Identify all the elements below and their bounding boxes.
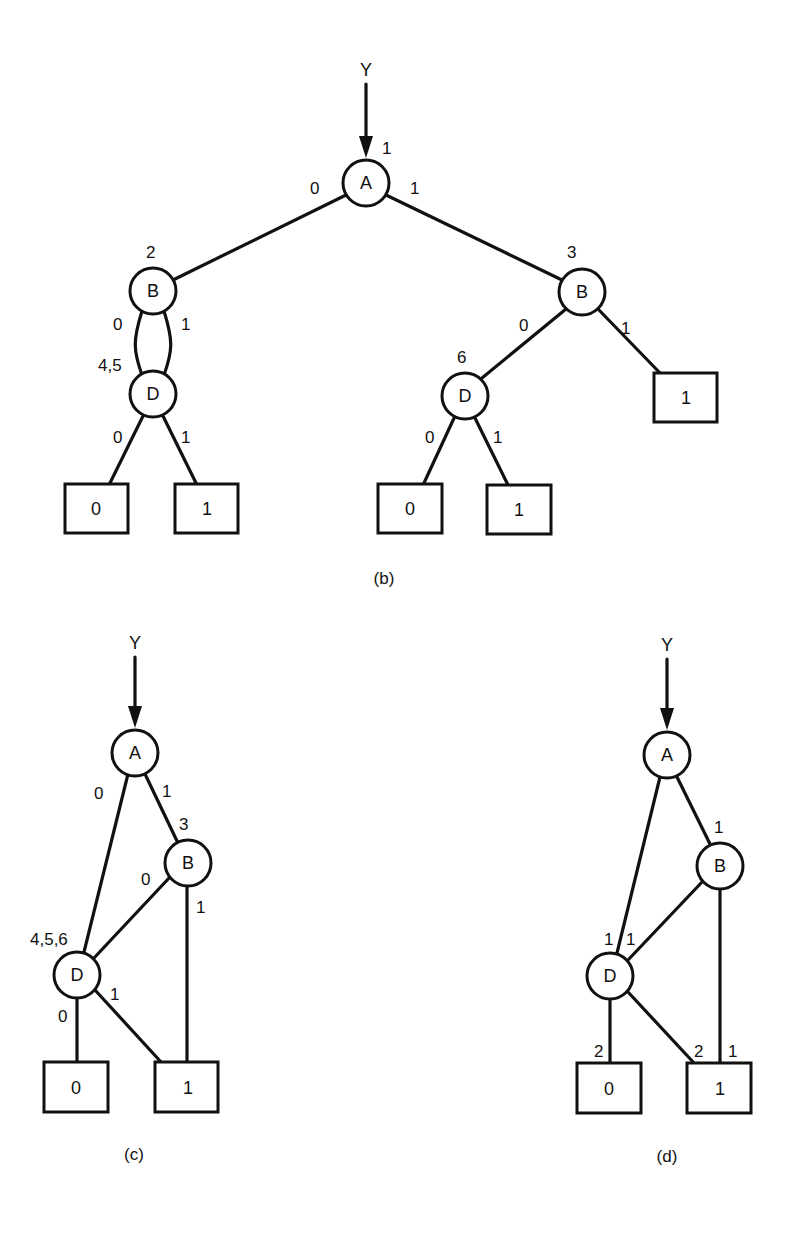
- terminal-1: 1: [155, 1062, 218, 1112]
- svg-text:B: B: [182, 853, 194, 873]
- svg-text:0: 0: [91, 499, 101, 519]
- node-a: A: [343, 160, 389, 206]
- diagram-c: Y 0 1 0 1 0 1 3 4,5,6 A B D: [30, 633, 218, 1164]
- svg-text:D: D: [147, 384, 160, 404]
- input-arrow: [660, 659, 674, 730]
- node-d: D: [587, 953, 633, 999]
- terminal-0: 0: [577, 1063, 641, 1113]
- edge-label: 1: [196, 898, 205, 917]
- edge-label: 1: [181, 315, 190, 334]
- svg-text:D: D: [71, 965, 84, 985]
- edge-label: 1: [181, 428, 190, 447]
- node-id-label: 4,5,6: [30, 930, 68, 949]
- edge-b-to-d: [628, 881, 703, 960]
- edge-label: 1: [162, 782, 171, 801]
- node-id-label: 2: [146, 243, 155, 262]
- terminal-1: 1: [175, 484, 238, 533]
- input-arrow: [128, 657, 142, 728]
- svg-text:B: B: [147, 281, 159, 301]
- node-d-right: D: [442, 373, 488, 419]
- node-b: B: [697, 843, 743, 889]
- terminal-1: 1: [687, 1063, 751, 1113]
- edge-label: 0: [94, 784, 103, 803]
- svg-text:1: 1: [681, 388, 691, 408]
- edge-a-0: [173, 195, 346, 280]
- terminal-0: 0: [65, 484, 128, 533]
- svg-text:D: D: [604, 966, 617, 986]
- terminal-0: 0: [378, 484, 442, 533]
- diagram-d: Y 1 1 1 2 2 1 A B D 0: [577, 635, 751, 1166]
- node-b-right: B: [559, 269, 605, 315]
- edge-bl-1: [164, 311, 171, 375]
- svg-text:0: 0: [604, 1079, 614, 1099]
- svg-text:0: 0: [405, 499, 415, 519]
- edge-weight: 2: [594, 1042, 603, 1061]
- edge-a-to-b: [677, 777, 710, 844]
- node-b: B: [165, 840, 211, 886]
- edge-label: 0: [58, 1007, 67, 1026]
- edge-label: 1: [110, 985, 119, 1004]
- edge-a-0: [84, 774, 128, 952]
- edge-a-to-d: [617, 777, 660, 953]
- edge-label: 0: [425, 428, 434, 447]
- svg-text:1: 1: [183, 1078, 193, 1098]
- input-label-y: Y: [129, 633, 141, 653]
- node-a: A: [112, 730, 158, 776]
- edge-d-to-t1: [628, 992, 694, 1063]
- input-label-y: Y: [661, 635, 673, 655]
- edge-dl-0: [110, 414, 144, 483]
- edge-a-1: [145, 774, 177, 841]
- svg-text:B: B: [714, 856, 726, 876]
- terminal-1: 1: [487, 485, 551, 534]
- edge-label: 0: [519, 316, 528, 335]
- node-id-label: 3: [179, 815, 188, 834]
- input-arrow: [359, 84, 373, 158]
- node-d: D: [54, 952, 100, 998]
- edge-weight: 1: [714, 818, 723, 837]
- edge-weight: 1: [604, 930, 613, 949]
- caption-c: (c): [124, 1145, 144, 1164]
- root-weight-label: 1: [382, 139, 391, 158]
- node-b-left: B: [130, 268, 176, 314]
- edge-dr-0: [424, 416, 455, 483]
- node-id-label: 6: [457, 348, 466, 367]
- bdd-figure: Y 1 0 1 0 1 0 1 0 1 0 1 2 3 4,5 6: [0, 0, 796, 1238]
- edge-d-1: [95, 990, 161, 1062]
- node-id-label: 3: [567, 243, 576, 262]
- edge-label: 1: [621, 319, 630, 338]
- svg-text:A: A: [661, 745, 673, 765]
- caption-b: (b): [374, 569, 395, 588]
- edge-label: 0: [113, 315, 122, 334]
- edge-label: 0: [310, 179, 319, 198]
- terminal-0: 0: [44, 1062, 108, 1112]
- node-id-label: 4,5: [98, 356, 122, 375]
- edge-bl-0: [135, 311, 142, 375]
- edge-dl-1: [162, 414, 196, 483]
- caption-d: (d): [657, 1147, 678, 1166]
- edge-label: 0: [141, 870, 150, 889]
- edge-label: 1: [493, 428, 502, 447]
- svg-text:0: 0: [71, 1078, 81, 1098]
- svg-text:1: 1: [715, 1079, 725, 1099]
- edge-weight: 1: [626, 930, 635, 949]
- svg-text:1: 1: [202, 499, 212, 519]
- edge-label: 0: [113, 428, 122, 447]
- edge-weight: 1: [728, 1042, 737, 1061]
- edge-a-1: [386, 195, 562, 280]
- svg-text:B: B: [576, 282, 588, 302]
- edge-label: 1: [410, 179, 419, 198]
- edge-weight: 2: [694, 1042, 703, 1061]
- svg-text:1: 1: [514, 500, 524, 520]
- edge-b-0: [94, 877, 170, 958]
- input-label-y: Y: [360, 60, 372, 80]
- edge-dr-1: [474, 416, 508, 485]
- diagram-b: Y 1 0 1 0 1 0 1 0 1 0 1 2 3 4,5 6: [65, 60, 717, 588]
- node-a: A: [644, 732, 690, 778]
- svg-text:A: A: [129, 743, 141, 763]
- node-d-left: D: [130, 371, 176, 417]
- svg-text:A: A: [360, 173, 372, 193]
- svg-text:D: D: [459, 386, 472, 406]
- terminal-1: 1: [654, 373, 717, 422]
